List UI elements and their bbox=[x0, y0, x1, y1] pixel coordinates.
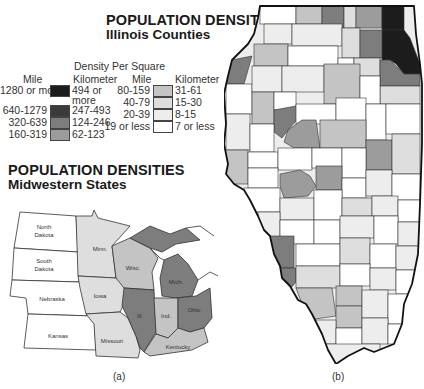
legend-row: 19 or less 7 or less bbox=[110, 121, 220, 133]
legend-mile-value: 19 or less bbox=[98, 121, 150, 131]
label-south-dakota-2: Dakota bbox=[34, 266, 54, 272]
midwest-map-title: POPULATION DENSITIES Midwestern States bbox=[8, 163, 185, 192]
caption-b: (b) bbox=[332, 371, 344, 382]
state-michigan bbox=[160, 254, 198, 298]
legend-swatch bbox=[50, 85, 70, 97]
legend-mile-value: 160-319 bbox=[0, 129, 47, 139]
legend-mile-value: 40-79 bbox=[110, 97, 150, 107]
legend-swatch bbox=[153, 121, 173, 133]
legend-mile-value: 640-1279 bbox=[0, 105, 47, 115]
legend-mile-value: 320-639 bbox=[0, 117, 47, 127]
legend-mile-value: 1280 or more bbox=[0, 85, 50, 95]
label-north-dakota-2: Dakota bbox=[34, 232, 54, 238]
legend-mile-value: 80-159 bbox=[110, 85, 150, 95]
label-minnesota: Minn. bbox=[93, 246, 108, 252]
label-iowa: Iowa bbox=[94, 293, 107, 299]
legend-km-value: 7 or less bbox=[175, 121, 215, 131]
legend-km-value: 15-30 bbox=[175, 97, 202, 107]
legend-swatch bbox=[153, 97, 173, 109]
state-kansas bbox=[24, 314, 96, 350]
legend-km-value: 247-493 bbox=[72, 105, 111, 115]
label-kentucky: Kentucky bbox=[166, 344, 191, 350]
midwest-title-line1: POPULATION DENSITIES bbox=[8, 163, 185, 178]
label-michigan: Mich. bbox=[169, 279, 184, 285]
legend-swatch bbox=[50, 105, 70, 117]
legend-swatch bbox=[50, 129, 70, 141]
legend-swatch bbox=[153, 85, 173, 97]
label-missouri: Missouri bbox=[101, 338, 123, 344]
legend-swatch bbox=[50, 117, 70, 129]
midwest-title-line2: Midwestern States bbox=[8, 178, 185, 192]
label-nebraska: Nebraska bbox=[39, 296, 65, 302]
legend-swatch bbox=[153, 109, 173, 121]
legend-mile-value: 20-39 bbox=[110, 109, 150, 119]
label-indiana: Ind. bbox=[161, 313, 171, 319]
legend-header: Density Per Square bbox=[74, 60, 165, 72]
legend-row: 160-319 62-123 bbox=[0, 129, 110, 141]
label-kansas: Kansas bbox=[48, 333, 68, 339]
label-illinois: Ill. bbox=[137, 313, 143, 319]
legend-row: 1280 or more 494 or more bbox=[0, 85, 110, 97]
midwest-states-map: North Dakota South Dakota Nebraska Kansa… bbox=[0, 200, 220, 370]
legend-km-value: 494 or more bbox=[72, 85, 112, 105]
legend-km-value: 31-61 bbox=[175, 85, 202, 95]
county-jackson bbox=[296, 288, 336, 320]
legend-km-value: 8-15 bbox=[175, 109, 196, 119]
state-south-dakota bbox=[12, 248, 80, 282]
label-south-dakota-1: South bbox=[36, 258, 52, 264]
label-ohio: Ohio bbox=[188, 307, 201, 313]
illinois-counties-map bbox=[224, 4, 424, 364]
label-north-dakota-1: North bbox=[37, 224, 52, 230]
caption-a: (a) bbox=[113, 371, 125, 382]
label-wisconsin: Wisc. bbox=[126, 265, 141, 271]
density-legend: Density Per Square Mile Kilometer Mile K… bbox=[0, 60, 215, 135]
